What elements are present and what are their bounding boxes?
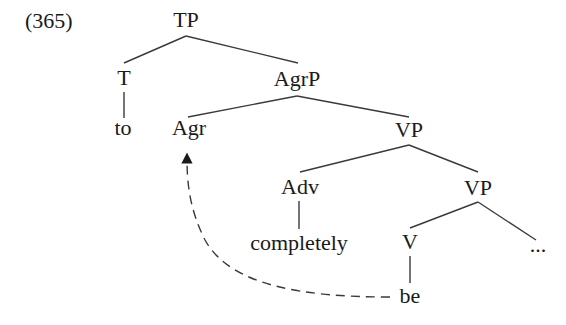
- node-tp: TP: [173, 9, 199, 31]
- edge-vpinner-ellipsis: [478, 202, 536, 240]
- leaf-completely: completely: [250, 232, 348, 254]
- leaf-ellipsis: ...: [530, 234, 547, 256]
- node-agr: Agr: [172, 117, 206, 139]
- edge-agrp-vp: [297, 96, 409, 117]
- tree-branches: [0, 0, 566, 325]
- node-vp-outer: VP: [395, 119, 423, 141]
- node-adv: Adv: [281, 176, 319, 198]
- edge-tp-agrp: [186, 36, 298, 63]
- edge-tp-t: [124, 36, 186, 63]
- edge-vp-adv: [300, 145, 409, 172]
- node-v: V: [402, 231, 418, 253]
- edge-agrp-agr: [188, 96, 297, 117]
- node-agrp: AgrP: [274, 68, 320, 90]
- edge-vp-vpinner: [409, 145, 478, 172]
- node-vp-inner: VP: [464, 177, 492, 199]
- leaf-be: be: [400, 285, 421, 307]
- edge-vpinner-v: [410, 202, 478, 228]
- leaf-to: to: [114, 117, 131, 139]
- node-t: T: [117, 67, 130, 89]
